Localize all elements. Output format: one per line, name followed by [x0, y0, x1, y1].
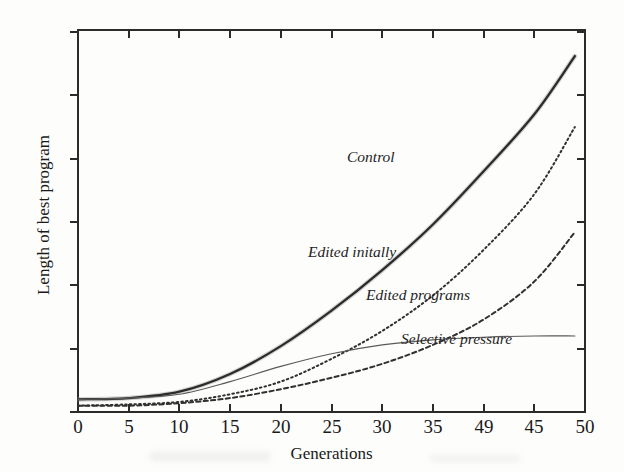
data-curves — [77, 29, 586, 413]
y-axis-title: Length of best program — [34, 0, 54, 450]
x-tick-label: 25 — [312, 417, 352, 436]
plot-area: 050100150200250300 05101520253035494550 … — [77, 29, 586, 413]
x-tick-label: 10 — [159, 417, 199, 436]
series-label-edited-programs: Edited programs — [366, 286, 470, 304]
curve-edited-initally — [78, 127, 575, 406]
series-label-selective-pressure: Selective pressure — [401, 330, 512, 348]
x-tick-label: 5 — [109, 417, 149, 436]
x-tick-label: 45 — [514, 417, 554, 436]
x-tick-label: 49 — [464, 417, 504, 436]
scan-artifact — [150, 452, 270, 461]
chart-figure: 050100150200250300 05101520253035494550 … — [0, 0, 624, 472]
scan-artifact — [430, 455, 520, 462]
x-tick-label: 15 — [210, 417, 250, 436]
x-tick-label: 30 — [362, 417, 402, 436]
x-tick-label: 35 — [413, 417, 453, 436]
x-tick-label: 0 — [58, 417, 98, 436]
x-tick-label: 50 — [565, 417, 605, 436]
x-tick-label: 20 — [261, 417, 301, 436]
series-label-edited-initally: Edited initally — [308, 243, 396, 261]
series-label-control: Control — [347, 148, 395, 166]
